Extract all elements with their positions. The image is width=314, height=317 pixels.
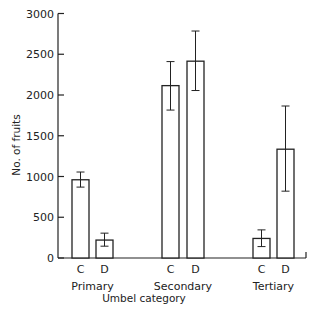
labels: CDPrimaryCDSecondaryCDTertiary — [71, 263, 294, 293]
bar-sub-label: D — [191, 263, 199, 276]
group-label-tertiary: Tertiary — [252, 280, 295, 293]
bar-sub-label: C — [167, 263, 175, 276]
y-tick-label: 2000 — [26, 89, 54, 102]
y-tick-label: 1500 — [26, 130, 54, 143]
bar-sub-label: D — [100, 263, 108, 276]
bars — [72, 31, 294, 258]
y-tick-label: 2500 — [26, 48, 54, 61]
bar-sub-label: C — [258, 263, 266, 276]
bar-secondary-c — [162, 86, 179, 258]
bar-primary-c — [72, 180, 89, 258]
y-tick-label: 500 — [33, 211, 54, 224]
bar-chart: 050010001500200025003000 CDPrimaryCDSeco… — [0, 0, 314, 317]
y-tick-label: 0 — [47, 252, 54, 265]
y-tick-label: 3000 — [26, 8, 54, 21]
y-axis: 050010001500200025003000 — [26, 8, 64, 266]
x-axis-title: Umbel category — [102, 292, 186, 304]
y-tick-label: 1000 — [26, 171, 54, 184]
y-axis-title: No. of fruits — [10, 114, 22, 175]
bar-sub-label: D — [281, 263, 289, 276]
bar-sub-label: C — [77, 263, 85, 276]
